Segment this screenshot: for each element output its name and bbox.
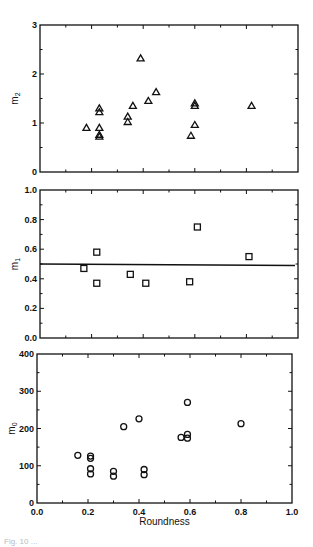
data-point-square <box>94 249 100 255</box>
data-point-circle <box>238 421 244 427</box>
y-tick-label: 200 <box>19 424 34 434</box>
data-point-triangle <box>187 132 194 138</box>
x-tick-label: 1.0 <box>286 507 299 517</box>
y-tick-label: 400 <box>19 349 34 359</box>
y-tick-label: 1 <box>32 118 37 128</box>
y-axis-title: m1 <box>9 258 21 270</box>
data-point-square <box>143 280 149 286</box>
data-point-circle <box>178 434 184 440</box>
panel-m0: 01002003004000.00.20.40.60.81.0Roundness… <box>6 349 298 527</box>
y-tick-label: 300 <box>19 386 34 396</box>
data-point-triangle <box>191 121 198 127</box>
data-point-triangle <box>83 124 90 130</box>
y-tick-label: 100 <box>19 461 34 471</box>
x-axis-title: Roundness <box>139 516 190 527</box>
data-point-circle <box>184 435 190 441</box>
y-axis-title: m2 <box>9 92 21 104</box>
data-point-square <box>127 271 133 277</box>
fit-line <box>40 264 295 265</box>
y-tick-label: 0.2 <box>24 303 37 313</box>
data-point-square <box>246 254 252 260</box>
y-tick-label: 0.6 <box>24 244 37 254</box>
y-axis-title: m0 <box>6 422 18 434</box>
data-point-square <box>194 224 200 230</box>
y-tick-label: 3 <box>32 20 37 30</box>
y-tick-label: 0 <box>32 167 37 177</box>
data-point-circle <box>75 452 81 458</box>
y-tick-label: 2 <box>32 69 37 79</box>
figure-canvas: 0123m20.00.20.40.60.81.0m101002003004000… <box>0 0 313 547</box>
y-tick-label: 0.0 <box>24 333 37 343</box>
data-point-triangle <box>129 102 136 108</box>
figure-caption: Fig. 10 ... <box>4 537 37 546</box>
plot-frame <box>37 354 292 503</box>
data-point-triangle <box>96 124 103 130</box>
data-point-circle <box>136 416 142 422</box>
x-tick-label: 0.2 <box>82 507 95 517</box>
data-point-square <box>94 280 100 286</box>
data-point-triangle <box>137 55 144 61</box>
plot-frame <box>40 25 298 172</box>
panel-m1: 0.00.20.40.60.81.0m1 <box>9 185 298 343</box>
data-point-circle <box>184 399 190 405</box>
data-point-square <box>81 265 87 271</box>
x-tick-label: 0.0 <box>31 507 44 517</box>
data-point-triangle <box>248 102 255 108</box>
y-tick-label: 1.0 <box>24 185 37 195</box>
data-point-triangle <box>145 97 152 103</box>
y-tick-label: 0.8 <box>24 215 37 225</box>
data-point-triangle <box>96 133 103 139</box>
data-point-circle <box>121 424 127 430</box>
y-tick-label: 0.4 <box>24 274 37 284</box>
x-tick-label: 0.8 <box>235 507 248 517</box>
panel-m2: 0123m2 <box>9 20 298 177</box>
data-point-triangle <box>153 89 160 95</box>
data-point-square <box>187 279 193 285</box>
